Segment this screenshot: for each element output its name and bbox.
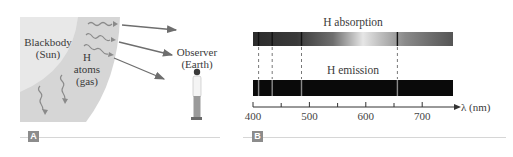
tick-400: 400 bbox=[245, 110, 262, 122]
panel-a-rule bbox=[20, 137, 220, 138]
observer-label-line2: (Earth) bbox=[174, 58, 220, 70]
gas-label-line3: (gas) bbox=[70, 75, 104, 87]
light-ray-2 bbox=[119, 42, 172, 55]
gas-label: H atoms (gas) bbox=[70, 51, 104, 87]
light-ray-3 bbox=[114, 58, 164, 79]
gas-label-line2: atoms bbox=[70, 63, 104, 75]
axis-label: λ (nm) bbox=[461, 101, 490, 113]
blackbody-label: Blackbody (Sun) bbox=[18, 36, 78, 60]
spectrum-lines-and-axis bbox=[240, 0, 513, 157]
panel-b-tag: B bbox=[252, 131, 263, 142]
observer-label: Observer (Earth) bbox=[174, 46, 220, 70]
tick-500: 500 bbox=[301, 110, 318, 122]
observer-figure-icon bbox=[191, 69, 202, 120]
panel-b-rule bbox=[243, 137, 506, 138]
tick-600: 600 bbox=[358, 110, 375, 122]
tick-700: 700 bbox=[414, 110, 431, 122]
panel-a-tag: A bbox=[28, 131, 39, 142]
blackbody-label-line1: Blackbody bbox=[18, 36, 78, 48]
blackbody-label-line2: (Sun) bbox=[18, 48, 78, 60]
light-ray-1 bbox=[122, 25, 176, 30]
observer-label-line1: Observer bbox=[174, 46, 220, 58]
gas-label-line1: H bbox=[70, 51, 104, 63]
